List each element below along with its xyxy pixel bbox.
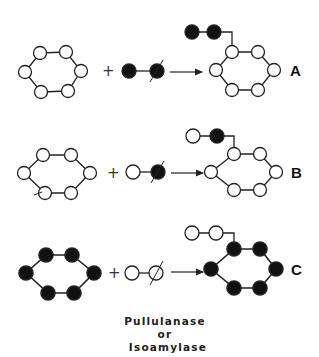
cyclodextrin-ring-acceptor-b [18, 149, 97, 200]
maltose-donor-c [125, 261, 163, 285]
product-b [186, 129, 283, 197]
row-label-c: C [291, 261, 302, 278]
row-b: + B [18, 129, 303, 200]
product-c [185, 226, 283, 295]
plus-sign: + [107, 164, 120, 182]
cyclodextrin-transglycosylation-diagram: + A [0, 0, 319, 357]
cyclodextrin-ring-acceptor-c [19, 248, 101, 300]
plus-sign: + [102, 62, 115, 80]
maltose-donor-a [122, 60, 164, 82]
row-a: + A [19, 25, 302, 99]
cyclodextrin-ring-acceptor-a [19, 46, 88, 99]
row-c: + C [19, 226, 302, 300]
plus-sign: + [108, 264, 121, 282]
product-a [185, 25, 281, 97]
row-label-a: A [290, 62, 301, 79]
enzyme-caption: Pullulanase or Isoamylase [124, 315, 207, 353]
row-label-b: B [291, 164, 302, 181]
caption-line-3: Isoamylase [129, 341, 207, 353]
caption-line-2: or [158, 328, 173, 340]
caption-line-1: Pullulanase [124, 315, 206, 327]
maltose-donor-b [126, 161, 165, 183]
